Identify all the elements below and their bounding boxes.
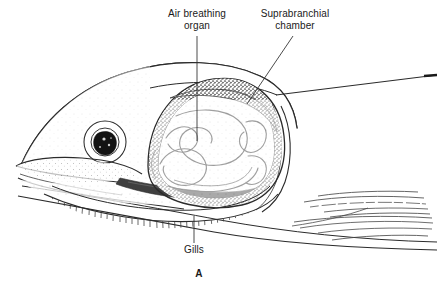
striation-2	[304, 196, 424, 202]
striation-4	[324, 208, 428, 212]
label-suprabranchial-chamber: Suprabranchial chamber	[236, 8, 354, 32]
eye-highlight-d	[110, 137, 112, 139]
dorsal-body-line	[276, 75, 437, 95]
figure-panel-a: Air breathing organ Suprabranchial chamb…	[0, 0, 437, 293]
label-suprabranchial-chamber-line2: chamber	[236, 20, 354, 32]
striation-7	[300, 221, 433, 228]
eye-highlight-b	[108, 144, 110, 146]
eye-highlight-c	[99, 146, 101, 148]
panel-letter: A	[186, 268, 212, 280]
body-muscle-striations-group	[292, 191, 433, 240]
striation-1	[318, 191, 418, 196]
eye-highlight-a	[102, 137, 105, 140]
striation-8	[318, 228, 432, 233]
striation-6	[294, 216, 432, 222]
eye-pupil	[94, 132, 117, 155]
label-suprabranchial-chamber-line1: Suprabranchial	[236, 8, 354, 20]
label-gills: Gills	[164, 244, 224, 256]
dorsal-body-line-tip	[424, 75, 437, 76]
striation-3	[310, 202, 426, 207]
eye-group	[84, 121, 126, 163]
